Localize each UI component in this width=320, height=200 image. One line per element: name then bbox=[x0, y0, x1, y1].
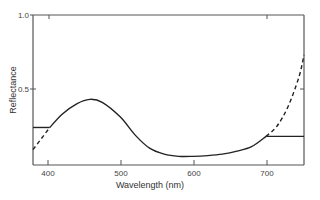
ticks bbox=[30, 15, 304, 165]
y-axis-title: Reflectance bbox=[8, 66, 18, 114]
reflectance-chart: 400 500 600 700 1.0 0.5 Wavelength (nm) … bbox=[0, 0, 320, 200]
series-line-0 bbox=[50, 99, 266, 156]
x-tick-label-700: 700 bbox=[260, 169, 274, 178]
x-tick-label-500: 500 bbox=[114, 169, 128, 178]
x-tick-label-600: 600 bbox=[187, 169, 201, 178]
y-tick-label-1.0: 1.0 bbox=[18, 11, 30, 20]
plot-frame bbox=[33, 15, 304, 165]
x-tick-label-400: 400 bbox=[41, 169, 55, 178]
series-line-4 bbox=[266, 55, 304, 136]
series-line-3 bbox=[33, 127, 50, 149]
x-axis-title: Wavelength (nm) bbox=[116, 180, 184, 190]
series-layer bbox=[33, 55, 304, 157]
y-tick-label-0.5: 0.5 bbox=[18, 85, 30, 94]
